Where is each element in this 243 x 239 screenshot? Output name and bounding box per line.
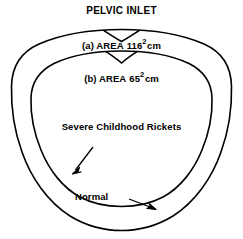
area-outer-label: (a) AREA1162cm	[0, 41, 243, 51]
pelvic-inlet-diagram	[0, 0, 243, 239]
normal-arrow	[129, 199, 156, 210]
area-outer-marker: (a)	[82, 40, 94, 51]
area-outer-exponent: 2	[142, 37, 146, 46]
area-outer-word: AREA	[96, 40, 123, 51]
rickets-caption: Severe Childhood Rickets	[0, 122, 243, 132]
area-inner-word: AREA	[99, 73, 126, 84]
pelvic-inlet-figure: PELVIC INLET (a) AREA1162cm (b) AREA652c…	[0, 0, 243, 239]
rickets-arrow	[73, 147, 94, 174]
area-inner-exponent: 2	[140, 70, 144, 79]
area-inner-marker: (b)	[84, 73, 96, 84]
area-outer-unit: cm	[147, 40, 161, 51]
page-title: PELVIC INLET	[0, 6, 243, 16]
area-inner-label: (b) AREA652cm	[0, 74, 243, 84]
area-outer-value: 116	[127, 40, 143, 51]
area-inner-unit: cm	[145, 73, 159, 84]
inner-sacral-promontory-notch	[106, 52, 137, 63]
normal-caption: Normal	[75, 192, 108, 202]
area-inner-value: 65	[129, 73, 140, 84]
